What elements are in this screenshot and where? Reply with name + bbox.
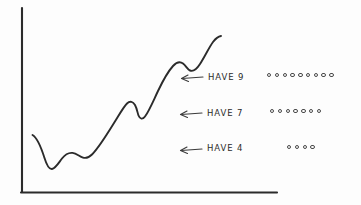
annotation-row-have-7: HAVE 7	[203, 108, 243, 118]
marker-circle	[306, 73, 310, 77]
marker-circle	[309, 109, 313, 113]
annotation-label-have-9: HAVE 9	[208, 72, 244, 82]
annotation-row-have-9: HAVE 9	[204, 72, 244, 82]
arrow-left-icon-have-7	[181, 111, 203, 118]
arrow-left-icon-have-9	[182, 75, 204, 82]
marker-group-have-9	[267, 73, 334, 77]
marker-circle	[329, 73, 333, 77]
marker-circle	[314, 73, 318, 77]
marker-circle	[267, 73, 271, 77]
marker-circle	[310, 145, 314, 149]
marker-circle	[275, 73, 279, 77]
marker-circle	[278, 109, 282, 113]
marker-circle	[295, 145, 299, 149]
marker-group-have-7	[270, 109, 321, 113]
chart-sketch-svg	[0, 0, 361, 205]
marker-circle	[321, 73, 325, 77]
marker-circle	[317, 109, 321, 113]
marker-circle	[283, 73, 287, 77]
marker-circle	[298, 73, 302, 77]
marker-circle	[286, 109, 290, 113]
marker-circle	[303, 145, 307, 149]
marker-circle	[301, 109, 305, 113]
chart-canvas: HAVE 9 HAVE 7 HAVE 4	[0, 0, 361, 205]
arrow-left-icon-have-4	[181, 147, 203, 154]
marker-group-have-4	[287, 145, 315, 149]
annotation-label-have-7: HAVE 7	[207, 108, 243, 118]
annotation-row-have-4: HAVE 4	[203, 143, 243, 153]
marker-circle	[287, 145, 291, 149]
trend-curve-path	[33, 36, 222, 169]
annotation-label-have-4: HAVE 4	[207, 143, 243, 153]
marker-circle	[290, 73, 294, 77]
marker-circle	[270, 109, 274, 113]
marker-circle	[293, 109, 297, 113]
